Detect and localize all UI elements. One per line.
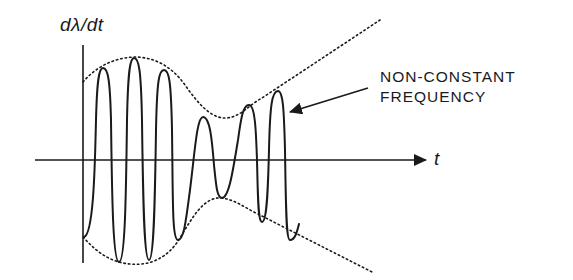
y-axis-label: dλ/dt xyxy=(60,14,104,36)
annotation-arrow xyxy=(290,88,368,112)
lower-envelope xyxy=(83,198,372,272)
diagram-canvas xyxy=(0,0,573,280)
x-axis-label: t xyxy=(434,148,439,170)
annotation-label: NON-CONSTANT FREQUENCY xyxy=(380,67,516,107)
annotation-line-1: NON-CONSTANT xyxy=(380,67,516,87)
annotation-line-2: FREQUENCY xyxy=(380,87,516,107)
